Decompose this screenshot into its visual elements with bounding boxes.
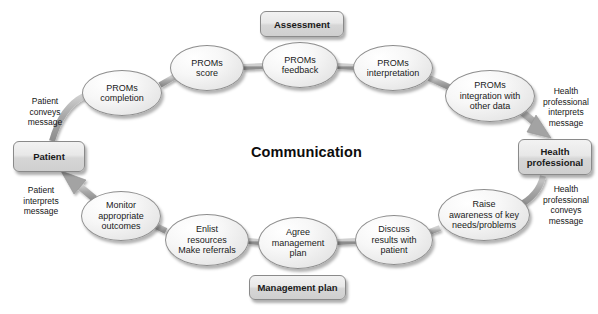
node-proms-completion[interactable]: PROMs completion [82, 70, 162, 116]
node-agree-management-plan-line2: management [272, 238, 325, 249]
node-proms-feedback-line1: PROMs [282, 55, 319, 66]
connector-discuss-results-agree-plan [337, 241, 356, 242]
node-enlist-resources-line2: resources [178, 235, 236, 246]
node-management-plan-label: Management plan [257, 282, 337, 293]
diagram-canvas: Communication Assessment Patient Health … [0, 0, 598, 314]
node-raise-awareness-line3: needs/problems [449, 220, 519, 231]
caption-hp-conveys-message-line4: message [536, 216, 596, 227]
node-proms-score-line2: score [191, 68, 223, 79]
connector-proms-interpretation-proms-integration [429, 78, 449, 87]
caption-patient-conveys-message: Patient conveys message [14, 96, 76, 128]
node-discuss-results-line2: results with [371, 235, 416, 246]
caption-patient-interprets-message-line2: interprets [10, 196, 72, 207]
node-health-professional[interactable]: Health professional [518, 139, 592, 175]
caption-hp-conveys-message-line1: Health [536, 184, 596, 195]
node-assessment[interactable]: Assessment [260, 11, 344, 37]
caption-patient-interprets-message: Patient interprets message [10, 185, 72, 217]
caption-hp-interprets-message-line1: Health [536, 86, 596, 97]
node-proms-integration-line1: PROMs [460, 80, 521, 91]
node-proms-integration[interactable]: PROMs integration with other data [445, 70, 535, 122]
node-raise-awareness-line2: awareness of key [449, 210, 519, 221]
node-proms-completion-line2: completion [100, 93, 144, 104]
node-discuss-results-line3: patient [371, 245, 416, 256]
caption-hp-conveys-message: Health professional conveys message [536, 184, 596, 226]
node-discuss-results[interactable]: Discuss results with patient [355, 215, 433, 265]
caption-hp-conveys-message-line3: conveys [536, 205, 596, 216]
node-monitor-outcomes-line2: appropriate [98, 211, 144, 222]
node-proms-feedback[interactable]: PROMs feedback [262, 42, 338, 88]
node-agree-management-plan-line1: Agree [272, 227, 325, 238]
node-patient[interactable]: Patient [13, 141, 85, 172]
node-monitor-outcomes-line3: outcomes [98, 221, 144, 232]
node-agree-management-plan-line3: plan [272, 248, 325, 259]
node-raise-awareness[interactable]: Raise awareness of key needs/problems [438, 189, 530, 241]
node-proms-interpretation-line1: PROMs [367, 58, 420, 69]
node-enlist-resources[interactable]: Enlist resources Make referrals [165, 214, 249, 266]
node-enlist-resources-line3: Make referrals [178, 245, 236, 256]
node-proms-completion-line1: PROMs [100, 83, 144, 94]
node-discuss-results-line1: Discuss [371, 224, 416, 235]
node-proms-score-line1: PROMs [191, 58, 223, 69]
node-enlist-resources-line1: Enlist [178, 224, 236, 235]
node-proms-interpretation[interactable]: PROMs interpretation [353, 45, 433, 91]
caption-patient-interprets-message-line1: Patient [10, 185, 72, 196]
node-proms-feedback-line2: feedback [282, 65, 319, 76]
connector-proms-completion-proms-score [160, 77, 174, 85]
node-assessment-label: Assessment [274, 19, 330, 30]
caption-patient-conveys-message-line3: message [14, 117, 76, 128]
caption-hp-interprets-message-line4: message [536, 118, 596, 129]
node-health-professional-label-line2: professional [527, 157, 584, 168]
node-agree-management-plan[interactable]: Agree management plan [258, 217, 338, 269]
node-monitor-outcomes[interactable]: Monitor appropriate outcomes [81, 191, 161, 241]
caption-patient-interprets-message-line3: message [10, 206, 72, 217]
center-title: Communication [251, 144, 362, 160]
caption-hp-interprets-message-line3: interprets [536, 107, 596, 118]
connector-proms-score-proms-feedback [243, 66, 263, 67]
node-proms-integration-line3: other data [460, 101, 521, 112]
caption-hp-conveys-message-line2: professional [536, 195, 596, 206]
node-monitor-outcomes-line1: Monitor [98, 200, 144, 211]
node-health-professional-label-line1: Health [540, 146, 569, 157]
node-proms-score[interactable]: PROMs score [170, 45, 244, 91]
caption-patient-conveys-message-line1: Patient [14, 96, 76, 107]
node-raise-awareness-line1: Raise [449, 199, 519, 210]
node-proms-integration-line2: integration with [460, 91, 521, 102]
caption-hp-interprets-message-line2: professional [536, 97, 596, 108]
caption-patient-conveys-message-line2: conveys [14, 107, 76, 118]
node-proms-interpretation-line2: interpretation [367, 68, 420, 79]
node-management-plan[interactable]: Management plan [249, 275, 346, 300]
caption-hp-interprets-message: Health professional interprets message [536, 86, 596, 128]
node-patient-label: Patient [33, 151, 65, 162]
